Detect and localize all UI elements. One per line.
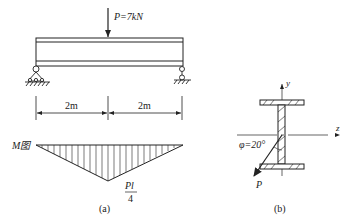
roller-support-icon [174, 67, 191, 85]
cross-section [237, 84, 340, 176]
moment-peak-denominator: 4 [128, 194, 133, 204]
beam [36, 38, 183, 66]
moment-diagram [36, 145, 183, 192]
z-axis-label: z [336, 123, 340, 133]
y-axis-label: y [286, 78, 290, 88]
span-left-label: 2m [65, 101, 78, 111]
diagram-canvas [0, 0, 350, 224]
moment-peak-numerator: Pl [125, 181, 134, 191]
angle-label: φ=20° [239, 140, 265, 150]
force-label: P [256, 180, 262, 190]
moment-diagram-label: M图 [12, 141, 30, 151]
dimension-lines [36, 96, 182, 120]
caption-b: (b) [274, 204, 286, 214]
span-right-label: 2m [138, 101, 151, 111]
caption-a: (a) [99, 204, 110, 214]
load-label-text: P=7kN [114, 11, 143, 22]
pin-support-icon [25, 66, 50, 86]
load-label: P=7kN [114, 12, 143, 22]
